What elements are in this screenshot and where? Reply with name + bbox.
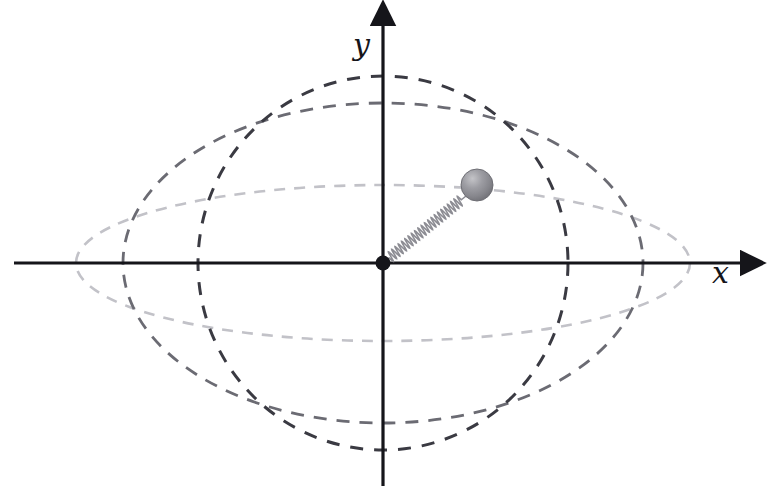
origin-point [376,256,391,271]
figure-canvas [0,0,770,500]
spring-coil [380,192,470,267]
spring-path [380,192,470,267]
y-axis-label: y [353,30,370,60]
mass-sphere [461,169,493,201]
physics-figure: y x [0,0,770,500]
x-axis-label: x [712,258,729,288]
oscillating-mass [461,169,493,201]
